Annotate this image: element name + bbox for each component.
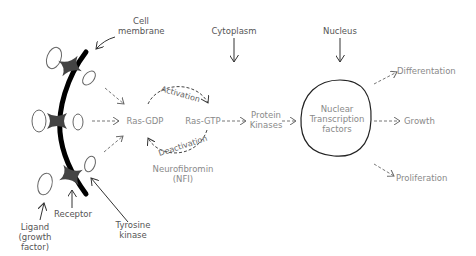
differentiation-arrow (374, 72, 397, 84)
receptor-label: Receptor (50, 209, 96, 219)
tyrosine-kinase-line2: kinase (110, 230, 156, 240)
tyrosine-kinase-label: Tyrosine kinase (110, 220, 156, 240)
cell-membrane-label-line2: membrane (118, 26, 164, 36)
ligand-icon (32, 110, 46, 132)
ras-pathway-diagram: Activation Deactivation Cell membrane Cy… (0, 0, 476, 256)
ligand-icon (44, 45, 65, 70)
proliferation-arrow (374, 164, 394, 176)
ligand-line2: (growth (14, 232, 56, 242)
cytoplasm-label: Cytoplasm (204, 26, 264, 36)
signal-arrow (104, 136, 123, 152)
cell-membrane-label-line1: Cell (118, 16, 164, 26)
ntf-line1: Nuclear (304, 104, 370, 114)
tyrosine-kinase-icon (83, 155, 98, 173)
differentiation-label: Differentation (397, 66, 456, 76)
ras-gdp-label: Ras-GDP (122, 116, 168, 126)
tyrosine-kinase-line1: Tyrosine (110, 220, 156, 230)
protein-kinases-line1: Protein (246, 110, 286, 120)
proliferation-label: Proliferation (396, 173, 447, 183)
neurofibromin-label: Neurofibromin (NFI) (150, 164, 216, 184)
tyrosine-kinase-arrow (91, 178, 128, 222)
ligand-line1: Ligand (14, 222, 56, 232)
ras-gtp-label: Ras-GTP (181, 116, 225, 126)
nucleus-label: Nucleus (315, 26, 365, 36)
ligand-arrow (40, 203, 44, 220)
nuclear-transcription-factors-label: Nuclear Transcription factors (304, 104, 370, 134)
neurofibromin-line2: (NFI) (150, 174, 216, 184)
tyrosine-kinase-icon (80, 69, 98, 88)
protein-kinases-label: Protein Kinases (246, 110, 286, 130)
deactivation-label: Deactivation (157, 134, 208, 158)
receptor-icon (47, 113, 67, 129)
ligand-label: Ligand (growth factor) (14, 222, 56, 252)
ntf-line2: Transcription (304, 114, 370, 124)
ligand-icon (35, 172, 54, 197)
tyrosine-kinase-icon (73, 114, 83, 130)
growth-label: Growth (404, 116, 435, 126)
signal-arrow (105, 88, 124, 104)
ligand-line3: factor) (14, 242, 56, 252)
ntf-line3: factors (304, 124, 370, 134)
cell-membrane-arrow (96, 37, 115, 49)
protein-kinases-line2: Kinases (246, 120, 286, 130)
cell-membrane-label: Cell membrane (118, 16, 164, 36)
activation-label: Activation (160, 84, 201, 104)
neurofibromin-line1: Neurofibromin (150, 164, 216, 174)
